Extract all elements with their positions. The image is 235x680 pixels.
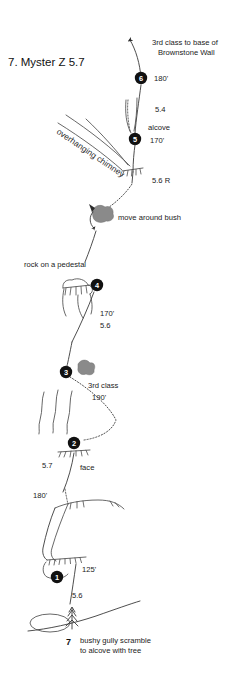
crack-wave-3 — [67, 391, 72, 434]
approach-marker: 7 — [66, 637, 71, 647]
pitch-1-rock-edge — [51, 504, 68, 561]
ledge-hatch-node1 — [49, 558, 82, 565]
crack-wave-1 — [39, 392, 44, 434]
bush-shape-node3 — [78, 360, 95, 375]
ground-slope-line — [28, 601, 140, 631]
face-label: face — [80, 463, 94, 472]
roof-line-180 — [55, 500, 124, 509]
pitch-4-length: 170' — [100, 309, 115, 318]
ledge-line-node2 — [58, 450, 90, 452]
alcove-label: alcove — [148, 123, 170, 132]
pine-tree-icon — [66, 607, 78, 629]
pitch-2-length: 180' — [33, 491, 48, 500]
belay-node-3-label: 3 — [64, 368, 68, 377]
belay-node-5-label: 5 — [133, 135, 137, 144]
pitch-5-route-lower — [132, 172, 133, 183]
move-around-bush-label: move around bush — [118, 213, 181, 222]
pitch-2-dotted-segment — [65, 489, 68, 504]
top-annotation-line1: 3rd class to base of — [152, 38, 219, 47]
page-title: 7. Myster Z 5.7 — [8, 56, 85, 68]
route-topo-diagram: 7. Myster Z 5.7 3rd class to base of Bro… — [0, 0, 235, 680]
grade-above-node5: 5.4 — [155, 105, 166, 114]
route-below-bush — [85, 231, 96, 262]
bush-shape-middle — [92, 205, 114, 222]
rock-on-pedestal-label: rock on a pedestal — [24, 260, 86, 269]
pitch-5-route-upper — [133, 145, 135, 172]
approach-line2: to alcove with tree — [80, 646, 141, 655]
belay-node-6-label: 6 — [139, 74, 143, 83]
pitch-6-route — [135, 85, 141, 133]
pitch-6-length: 180' — [154, 74, 169, 83]
pitch-5-length: 170' — [150, 136, 165, 145]
belay-node-2-label: 2 — [72, 439, 76, 448]
third-class-label: 3rd class — [88, 381, 119, 390]
grade-below-node2: 5.7 — [42, 461, 53, 470]
pedestal-mid-face — [78, 295, 83, 318]
top-annotation-line2: Brownstone Wall — [158, 48, 215, 57]
pedestal-cap-line — [63, 285, 91, 288]
pitch-1-route-left — [43, 508, 55, 560]
approach-line1: bushy gully scramble — [80, 636, 151, 645]
pitch-4-route — [72, 292, 94, 342]
pitch-1-length: 125' — [82, 565, 97, 574]
chimney-left-wall-upper — [126, 100, 131, 133]
boulder-oval — [30, 614, 70, 632]
grade-below-node1: 5.6 — [72, 591, 83, 600]
grade-below-node4: 5.6 — [100, 321, 111, 330]
belay-node-1-label: 1 — [55, 573, 59, 582]
grade-below-node5: 5.6 R — [152, 176, 171, 185]
route-to-node3 — [67, 342, 72, 366]
crack-wave-2 — [53, 390, 58, 433]
pitch-2-route — [63, 453, 74, 492]
